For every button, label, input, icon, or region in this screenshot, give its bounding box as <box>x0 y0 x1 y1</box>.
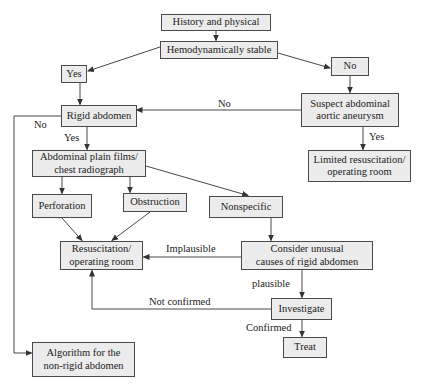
node-label: Obstruction <box>130 196 180 209</box>
node-consider-unusual-causes: Consider unusual causes of rigid abdomen <box>241 241 373 270</box>
node-label-line1: Suspect abdominal <box>310 98 390 111</box>
node-no-stable: No <box>331 57 369 76</box>
node-investigate: Investigate <box>271 298 332 320</box>
node-label: Nonspecific <box>221 201 272 214</box>
node-label-line2: chest radiograph <box>54 164 124 177</box>
node-history-and-physical: History and physical <box>161 14 271 31</box>
node-obstruction: Obstruction <box>123 193 187 212</box>
node-label-line1: Abdominal plain films/ <box>40 151 138 164</box>
node-rigid-abdomen: Rigid abdomen <box>61 105 137 127</box>
edge-label-investigate-to-treat: Confirmed <box>246 322 292 334</box>
node-label-line2: causes of rigid abdomen <box>256 256 358 269</box>
node-perforation: Perforation <box>32 194 92 218</box>
node-hemodynamically-stable: Hemodynamically stable <box>160 41 278 59</box>
node-label-line1: Consider unusual <box>270 243 343 256</box>
edge-label-suspect-to-rigid: No <box>218 98 231 110</box>
node-label: Hemodynamically stable <box>167 44 272 57</box>
node-label-line1: Resuscitation/ <box>72 243 132 256</box>
node-suspect-aaa: Suspect abdominal aortic aneurysm <box>301 93 399 127</box>
edge-label-rigid-to-films: Yes <box>64 132 79 144</box>
edge-label-investigate-to-resus: Not confirmed <box>149 296 211 308</box>
edge-label-rigid-to-algorithm: No <box>34 119 47 131</box>
node-label: Yes <box>66 68 81 81</box>
node-label: No <box>344 60 357 73</box>
node-nonspecific: Nonspecific <box>209 196 283 218</box>
node-algorithm-non-rigid: Algorithm for the non-rigid abdomen <box>32 342 135 377</box>
edge-label-consider-to-investigate: plausible <box>252 278 290 290</box>
node-label-line2: non-rigid abdomen <box>43 360 123 373</box>
node-limited-resuscitation: Limited resuscitation/ operating room <box>308 150 411 182</box>
node-label-line2: operating room <box>327 166 391 179</box>
edge-label-suspect-to-limited: Yes <box>369 131 384 143</box>
node-label-line2: operating room <box>69 256 133 269</box>
node-label-line2: aortic aneurysm <box>316 110 383 123</box>
node-label-line1: Algorithm for the <box>46 347 120 360</box>
node-label-line1: Limited resuscitation/ <box>314 154 406 167</box>
node-resuscitation-or: Resuscitation/ operating room <box>60 241 143 270</box>
node-label: Perforation <box>38 200 85 213</box>
node-treat: Treat <box>283 337 327 358</box>
edge-label-consider-to-resus: Implausible <box>166 243 216 255</box>
node-label: Rigid abdomen <box>67 110 131 123</box>
node-label: History and physical <box>173 16 260 29</box>
node-abdominal-plain-films: Abdominal plain films/ chest radiograph <box>32 150 146 177</box>
node-label: Treat <box>294 341 316 354</box>
node-label: Investigate <box>278 303 324 316</box>
node-yes-stable: Yes <box>61 65 87 83</box>
